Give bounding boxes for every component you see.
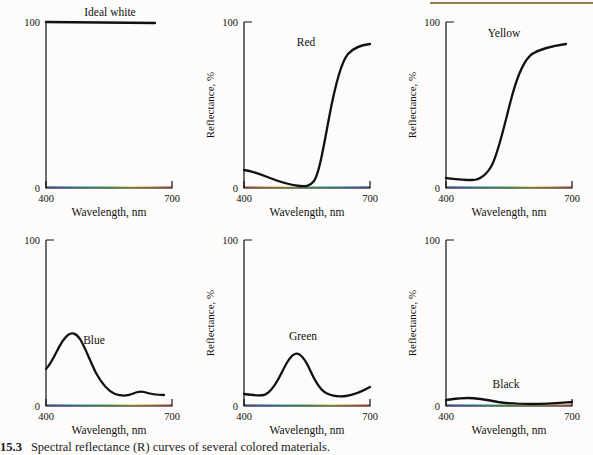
curve-black [446, 398, 572, 404]
curve-blue [46, 333, 164, 395]
panel-ideal-white: 100 0 400 700 Ideal white Wavelength, nm [0, 0, 197, 220]
y-axis-title: Reflectance, % [406, 72, 418, 139]
panel-black: 100 0 400 700 Black Wavelength, nm Refle… [400, 218, 593, 438]
y-tick-100: 100 [222, 235, 238, 246]
series-label-ideal-white: Ideal white [84, 6, 135, 18]
x-tick-400: 400 [38, 411, 54, 422]
y-axis [244, 22, 252, 188]
figure-spectral-reflectance: 100 0 400 700 Ideal white Wavelength, nm [0, 0, 593, 455]
panel-red: 100 0 400 700 Red Wavelength, nm Reflect… [198, 0, 395, 220]
series-label-green: Green [289, 330, 317, 342]
y-axis-title: Reflectance, % [204, 72, 216, 139]
x-tick-700: 700 [362, 193, 378, 204]
y-tick-100: 100 [424, 17, 440, 28]
panel-grid: 100 0 400 700 Ideal white Wavelength, nm [0, 0, 593, 440]
y-axis [46, 22, 54, 188]
series-label-red: Red [297, 36, 316, 48]
series-label-blue: Blue [83, 334, 105, 346]
curve-ideal-white [46, 22, 155, 23]
x-axis-title: Wavelength, nm [269, 424, 344, 437]
x-axis-title: Wavelength, nm [71, 424, 146, 437]
x-tick-400: 400 [236, 193, 252, 204]
y-axis-title: Reflectance, % [406, 290, 418, 357]
x-tick-700: 700 [362, 411, 378, 422]
x-tick-700: 700 [564, 193, 580, 204]
figure-caption-text: Spectral reflectance (R) curves of sever… [31, 440, 330, 454]
panel-yellow: 100 0 400 700 Yellow Wavelength, nm Refl… [400, 0, 593, 220]
y-tick-100: 100 [24, 235, 40, 246]
x-tick-400: 400 [438, 193, 454, 204]
figure-caption: 15.3Spectral reflectance (R) curves of s… [0, 440, 593, 455]
curve-red [244, 44, 370, 186]
y-tick-100: 100 [24, 17, 40, 28]
panel-blue: 100 0 400 700 Blue Wavelength, nm [0, 218, 197, 438]
y-axis [46, 240, 54, 406]
y-axis-title: Reflectance, % [204, 290, 216, 357]
x-axis-title: Wavelength, nm [471, 424, 546, 437]
y-axis [244, 240, 252, 406]
curve-green [244, 354, 370, 397]
series-label-yellow: Yellow [488, 27, 521, 39]
figure-number: 15.3 [0, 440, 22, 454]
y-tick-100: 100 [424, 235, 440, 246]
x-tick-700: 700 [164, 411, 180, 422]
y-tick-100: 100 [222, 17, 238, 28]
curve-yellow [446, 44, 566, 180]
x-tick-400: 400 [38, 193, 54, 204]
x-tick-700: 700 [164, 193, 180, 204]
panel-green: 100 0 400 700 Green Wavelength, nm Refle… [198, 218, 395, 438]
x-tick-700: 700 [564, 411, 580, 422]
y-axis [446, 22, 454, 188]
y-axis [446, 240, 454, 406]
series-label-black: Black [493, 378, 520, 390]
x-tick-400: 400 [236, 411, 252, 422]
x-tick-400: 400 [438, 411, 454, 422]
